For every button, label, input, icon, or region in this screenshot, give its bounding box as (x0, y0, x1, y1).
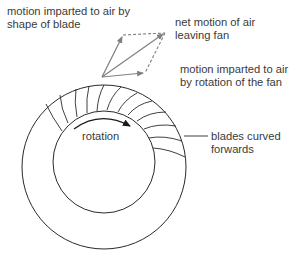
outer-circle (22, 85, 186, 249)
vector-diagram (102, 33, 165, 77)
label-rotation-motion: motion imparted to air by rotation of th… (180, 63, 288, 89)
label-rotation: rotation (82, 130, 119, 143)
label-net-motion: net motion of air leaving fan (175, 16, 255, 42)
rotation-vector (102, 73, 143, 77)
label-blade-shape: motion imparted to air by shape of blade (7, 5, 130, 31)
blades (46, 85, 185, 157)
rotation-arrow (74, 119, 130, 129)
label-blades: blades curved forwards (211, 130, 281, 156)
blade-shape-vector (102, 37, 122, 77)
inner-circle (53, 111, 155, 213)
